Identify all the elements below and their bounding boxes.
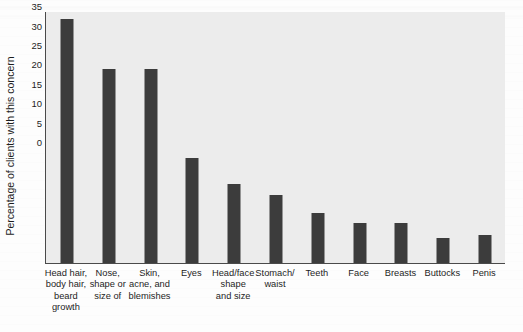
y-axis-tick-label: 65 bbox=[20, 0, 42, 138]
y-axis-title: Percentage of clients with this concern bbox=[2, 10, 18, 282]
bar[interactable] bbox=[479, 235, 492, 263]
bar-slot bbox=[339, 12, 381, 263]
bar[interactable] bbox=[437, 238, 450, 263]
bar-slot bbox=[171, 12, 213, 263]
bar[interactable] bbox=[353, 223, 366, 263]
bar[interactable] bbox=[102, 69, 115, 263]
bar-slot bbox=[255, 12, 297, 263]
bar-slot bbox=[88, 12, 130, 263]
bar[interactable] bbox=[269, 195, 282, 263]
bar-slot bbox=[297, 12, 339, 263]
bar-slot bbox=[46, 12, 88, 263]
plot-area bbox=[45, 12, 505, 264]
bars-layer bbox=[46, 12, 505, 263]
bar-chart: Percentage of clients with this concern … bbox=[0, 0, 523, 332]
y-axis-tick-labels: 05101520253035404550556065 bbox=[20, 12, 42, 264]
bar-slot bbox=[381, 12, 423, 263]
bar[interactable] bbox=[311, 213, 324, 263]
bar[interactable] bbox=[395, 223, 408, 263]
x-axis-tick-label: Penis bbox=[456, 268, 512, 279]
bar[interactable] bbox=[228, 184, 241, 263]
bar[interactable] bbox=[186, 158, 199, 263]
bar-slot bbox=[422, 12, 464, 263]
bar-slot bbox=[464, 12, 506, 263]
bar-slot bbox=[213, 12, 255, 263]
x-axis-tick-labels: Head hair,body hair,beardgrowthNose,shap… bbox=[45, 268, 505, 326]
bar[interactable] bbox=[144, 69, 157, 263]
bar[interactable] bbox=[60, 19, 73, 263]
bar-slot bbox=[130, 12, 172, 263]
